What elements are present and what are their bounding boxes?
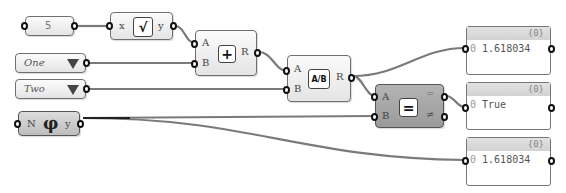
value-list-one-selected: One: [24, 57, 45, 68]
division-node[interactable]: A B A/B R: [287, 55, 351, 102]
wire-div-to-panel1: [353, 48, 465, 76]
panel-row-value: True: [482, 99, 506, 110]
div-output-port[interactable]: [348, 74, 355, 82]
phi-icon: φ: [43, 113, 58, 133]
panel-row: 0 1.618034: [467, 151, 550, 165]
eq-input-a-port[interactable]: [371, 93, 378, 101]
panel-row-index: 0: [470, 43, 476, 54]
dropdown-arrow-icon[interactable]: [67, 59, 79, 69]
value-list-two-output-port[interactable]: [83, 85, 90, 93]
panel-output-2[interactable]: {0} 0 True: [466, 82, 551, 130]
eq-output-notequal-label: ≠: [426, 109, 434, 120]
equals-icon: =: [399, 98, 418, 117]
panel-path: {0}: [467, 27, 550, 40]
phi-output-label: y: [65, 118, 71, 129]
number-node[interactable]: 5: [25, 16, 74, 36]
panel-3-input-port[interactable]: [462, 157, 469, 165]
panel-row-index: 0: [470, 99, 476, 110]
sqrt-output-port[interactable]: [170, 22, 177, 30]
eq-input-a-label: A: [382, 91, 389, 102]
panel-1-output-port[interactable]: [548, 45, 555, 53]
eq-output-notequal-port[interactable]: [441, 113, 448, 121]
phi-output-port[interactable]: [77, 120, 84, 128]
panel-3-output-port[interactable]: [548, 157, 555, 165]
divide-icon: A/B: [308, 69, 330, 89]
sqrt-input-label: x: [119, 20, 125, 31]
sqrt-input-port[interactable]: [106, 22, 113, 30]
panel-path: {0}: [467, 83, 550, 96]
number-output-port[interactable]: [71, 22, 78, 30]
phi-input-label: N: [27, 118, 36, 129]
dropdown-arrow-icon[interactable]: [67, 85, 79, 95]
add-input-a-port[interactable]: [191, 40, 198, 48]
add-output-port[interactable]: [254, 49, 261, 57]
equality-node[interactable]: A B = = ≠: [375, 84, 444, 128]
phi-input-port[interactable]: [14, 120, 21, 128]
golden-ratio-node[interactable]: N φ y: [18, 111, 80, 136]
panel-row-value: 1.618034: [482, 154, 530, 165]
plus-icon: +: [218, 45, 236, 63]
panel-row-value: 1.618034: [482, 43, 530, 54]
addition-node[interactable]: A B + R: [195, 30, 257, 76]
number-input-port[interactable]: [21, 22, 28, 30]
value-list-two[interactable]: Two: [15, 79, 86, 99]
panel-2-output-port[interactable]: [548, 104, 555, 112]
panel-row: 0 1.618034: [467, 40, 550, 54]
div-output-label: R: [336, 71, 344, 82]
div-input-a-label: A: [294, 63, 301, 74]
div-input-b-label: B: [294, 83, 301, 94]
add-input-b-label: B: [202, 57, 209, 68]
panel-output-1[interactable]: {0} 0 1.618034: [466, 26, 551, 75]
value-list-one[interactable]: One: [15, 53, 86, 73]
number-value: 5: [45, 20, 51, 31]
panel-2-input-port[interactable]: [462, 104, 469, 112]
sqrt-node[interactable]: x √ y: [110, 12, 173, 40]
add-input-b-port[interactable]: [191, 60, 198, 68]
eq-input-b-label: B: [382, 110, 389, 121]
eq-output-equal-label: =: [426, 88, 434, 99]
panel-1-input-port[interactable]: [462, 45, 469, 53]
value-list-one-output-port[interactable]: [83, 59, 90, 67]
eq-output-equal-port[interactable]: [441, 93, 448, 101]
panel-row-index: 0: [470, 154, 476, 165]
add-output-label: R: [241, 46, 249, 57]
div-input-b-port[interactable]: [283, 86, 290, 94]
panel-output-3[interactable]: {0} 0 1.618034: [466, 137, 551, 186]
value-list-two-selected: Two: [24, 83, 45, 94]
sqrt-icon: √: [133, 17, 153, 37]
eq-input-b-port[interactable]: [371, 113, 378, 121]
panel-row: 0 True: [467, 96, 550, 110]
panel-path: {0}: [467, 138, 550, 151]
sqrt-output-label: y: [158, 20, 164, 31]
add-input-a-label: A: [202, 37, 209, 48]
div-input-a-port[interactable]: [283, 67, 290, 75]
